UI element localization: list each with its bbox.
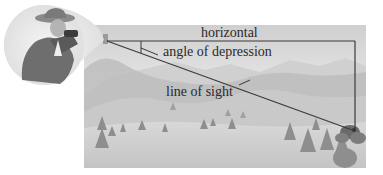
angle-of-depression-diagram: horizontal angle of depression line of s… <box>0 0 383 175</box>
observation-post <box>103 34 108 44</box>
horizontal-label: horizontal <box>201 26 258 40</box>
angle-of-depression-label: angle of depression <box>163 45 272 59</box>
line-of-sight-label: line of sight <box>166 85 233 99</box>
